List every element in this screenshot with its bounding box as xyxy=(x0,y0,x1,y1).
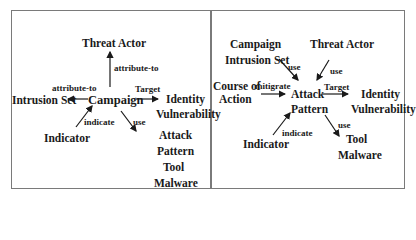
edge-label-indicate-right: indicate xyxy=(282,128,313,138)
node-tool-right: Tool xyxy=(346,133,367,145)
node-pattern: Pattern xyxy=(157,145,194,157)
node-vulnerability: Vulnerability xyxy=(156,108,221,120)
node-threat-actor-right: Threat Actor xyxy=(310,38,374,50)
node-tool: Tool xyxy=(163,161,184,173)
node-threat-actor: Threat Actor xyxy=(82,37,146,49)
node-indicator: Indicator xyxy=(44,132,90,144)
arrow-use-threat-actor xyxy=(317,60,329,80)
edge-label-indicate: indicate xyxy=(84,117,115,127)
node-attack: Attack xyxy=(159,129,192,141)
node-campaign: Campaign xyxy=(88,94,144,106)
node-course-of-action-line1: Course of xyxy=(213,80,261,92)
node-identity: Identity xyxy=(166,93,205,105)
node-indicator-right: Indicator xyxy=(243,138,289,150)
edge-label-attribute-to-up: attribute-to xyxy=(114,63,159,73)
node-vulnerability-right: Vulnerability xyxy=(351,103,416,115)
node-intrusion-set: Intrusion Set xyxy=(12,94,76,106)
node-malware: Malware xyxy=(154,177,198,189)
edge-label-use-right: use xyxy=(330,66,343,76)
node-malware-right: Malware xyxy=(338,149,382,161)
node-attack-pattern-line2: Pattern xyxy=(291,103,328,115)
node-attack-pattern-line1: Attack xyxy=(291,88,324,100)
node-campaign-right: Campaign xyxy=(230,38,281,50)
node-identity-right: Identity xyxy=(361,88,400,100)
edge-label-target-right: Target xyxy=(324,82,349,92)
node-intrusion-set-right: Intrusion Set xyxy=(225,54,289,66)
edge-label-attribute-to-left: attribute-to xyxy=(52,83,97,93)
node-course-of-action-line2: Action xyxy=(219,93,252,105)
edge-label-use-left: use xyxy=(288,62,301,72)
arrow-use-down xyxy=(325,115,339,136)
edge-label-mitigrate: mitigrate xyxy=(255,81,290,91)
edge-label-use-down: use xyxy=(338,120,351,130)
edge-label-use: use xyxy=(133,117,146,127)
